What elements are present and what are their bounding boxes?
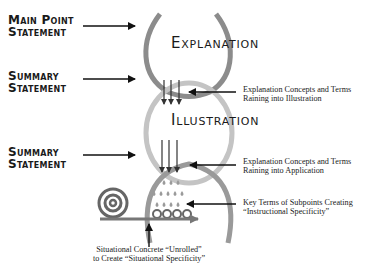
rolled-concrete-icon (99, 189, 127, 217)
note-line2: “Instructional Specificity” (243, 207, 353, 216)
situational-note: Situational Concrete “Unrolled” to Creat… (88, 245, 210, 263)
raining-illustration-note: Explanation Concepts and Terms Raining i… (243, 85, 351, 103)
illustration-title: Illustration (171, 113, 259, 128)
unrolled-circles-icon (153, 210, 191, 218)
main-point-line2: Statement (8, 26, 74, 38)
preaching-diagram: Main Point Statement Summary Statement S… (0, 0, 370, 268)
drops-icon (153, 180, 184, 207)
summary-1-line2: Statement (8, 82, 66, 94)
note-line2: Raining into Application (243, 166, 351, 175)
summary-2-line2: Statement (8, 158, 66, 170)
explanation-title: Explanation (171, 36, 259, 51)
note-line1: Key Terms of Subpoints Creating (243, 198, 353, 207)
raining-application-note: Explanation Concepts and Terms Raining i… (243, 157, 351, 175)
key-terms-note: Key Terms of Subpoints Creating “Instruc… (243, 198, 353, 216)
summary-label-1: Summary Statement (8, 70, 66, 94)
note-line1: Explanation Concepts and Terms (243, 157, 351, 166)
main-point-label: Main Point Statement (8, 14, 74, 38)
note-line1: Situational Concrete “Unrolled” (88, 245, 210, 254)
summary-label-2: Summary Statement (8, 146, 66, 170)
note-line2: Raining into Illustration (243, 94, 351, 103)
note-line2: to Create “Situational Specificity” (88, 254, 210, 263)
note-line1: Explanation Concepts and Terms (243, 85, 351, 94)
